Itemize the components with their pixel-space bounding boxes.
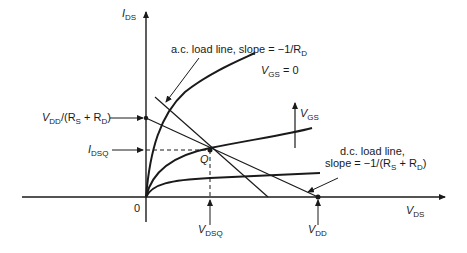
vdd-over-r-dot	[144, 116, 148, 120]
dc-load-line	[146, 118, 318, 197]
dc-load-arrow	[308, 178, 338, 192]
dc-load-line-label-1: d.c. load line,	[340, 145, 405, 157]
idsq-label: IDSQ	[88, 143, 108, 158]
vdd-label: VDD	[308, 223, 327, 238]
vdd-over-rs-rd-label: VDD/(RS + RD)	[42, 111, 111, 126]
vdd-dot	[316, 195, 321, 200]
q-point-label: Q	[200, 153, 209, 165]
dc-load-line-label-2: slope = −1/(RS + RD)	[325, 157, 426, 172]
origin-label: 0	[134, 202, 140, 214]
x-axis-label: VDS	[406, 204, 424, 219]
vgs-arrow-label: VGS	[300, 107, 319, 122]
curve-vgs-low	[146, 173, 320, 197]
vdsq-label: VDSQ	[198, 223, 223, 238]
q-point-dot	[208, 148, 213, 153]
vgs-zero-label: VGS = 0	[261, 64, 299, 79]
fet-load-line-diagram: IDS VDS 0 a.c. load line, slope = −1/RD …	[0, 0, 467, 253]
y-axis-label: IDS	[122, 7, 136, 22]
ac-load-line-label: a.c. load line, slope = −1/RD	[171, 43, 307, 58]
